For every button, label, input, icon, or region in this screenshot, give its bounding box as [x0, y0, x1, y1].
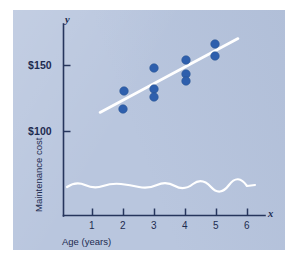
x-tick-label-5: 5 [213, 221, 219, 231]
data-point [211, 40, 220, 49]
x-tick-label-1: 1 [89, 221, 95, 231]
data-point [182, 56, 191, 65]
x-axis-title: Age (years) [62, 237, 111, 247]
data-point [120, 87, 129, 96]
data-point [182, 77, 191, 86]
data-point [119, 105, 128, 114]
data-point [150, 64, 159, 73]
data-point [150, 85, 159, 94]
x-axis-variable-label: x [268, 209, 273, 220]
scatter-plot-figure: y x $150 $100 1 2 3 4 5 6 Maintenance co… [0, 0, 298, 261]
axis-break-squiggle [67, 179, 255, 191]
y-axis-title: Maintenance cost [34, 138, 44, 212]
x-tick-label-2: 2 [120, 221, 126, 231]
data-point [150, 93, 159, 102]
data-point [211, 52, 220, 61]
x-tick-label-3: 3 [151, 221, 157, 231]
x-tick-label-6: 6 [244, 221, 250, 231]
y-tick-label-150: $150 [28, 60, 52, 71]
x-tick-label-4: 4 [182, 221, 188, 231]
trend-line [100, 39, 238, 113]
y-axis-variable-label: y [65, 15, 70, 26]
y-tick-label-100: $100 [28, 126, 52, 137]
